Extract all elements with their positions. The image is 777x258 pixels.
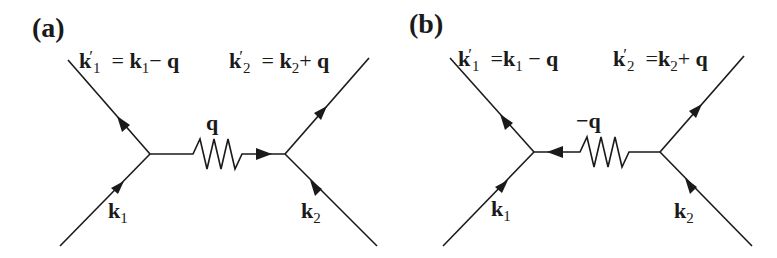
outgoing-momentum-k2-prime-label: k′2 = k2+ q — [229, 50, 329, 72]
feynman-diagram-a: (a) k′1 = k1− q k′2 = k2+ q q k1 k2 — [0, 0, 390, 258]
outgoing-momentum-k2-prime-label: k′2 =k2+ q — [613, 48, 708, 70]
incoming-momentum-k2-label: k2 — [674, 200, 694, 222]
arrow-icon — [500, 114, 513, 130]
incoming-fermion-line-k1 — [443, 152, 534, 246]
incoming-momentum-k1-label: k1 — [108, 200, 128, 222]
propagator-momentum-label: −q — [576, 110, 601, 132]
feynman-diagram-b: (b) k′1 =k1 − q k′2 =k2+ q −q k1 k2 — [390, 0, 777, 258]
arrowheads — [111, 106, 327, 196]
outgoing-momentum-k1-prime-label: k′1 =k1 − q — [458, 48, 558, 70]
outgoing-momentum-k1-prime-label: k′1 = k1− q — [79, 50, 179, 72]
panel-label: (b) — [409, 10, 443, 38]
arrow-icon — [310, 180, 322, 196]
propagator-momentum-label: q — [206, 112, 218, 134]
arrow-icon — [256, 148, 272, 160]
arrow-icon — [685, 178, 697, 194]
incoming-fermion-line-k2 — [285, 154, 377, 246]
incoming-momentum-k1-label: k1 — [491, 198, 511, 220]
arrow-icon — [547, 146, 563, 158]
incoming-fermion-line-k1 — [60, 154, 150, 246]
outgoing-fermion-line-k1-prime — [68, 60, 150, 154]
panel-label: (a) — [32, 14, 65, 42]
incoming-momentum-k2-label: k2 — [301, 200, 321, 222]
